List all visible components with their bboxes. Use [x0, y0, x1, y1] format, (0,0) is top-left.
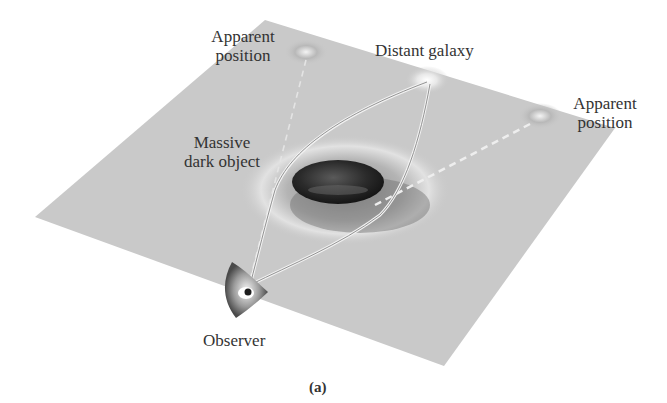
gravitational-lensing-diagram: Apparent position Distant galaxy Apparen…: [0, 0, 667, 403]
label-line: Apparent: [560, 94, 650, 113]
label-line: dark object: [172, 152, 272, 171]
distant-galaxy: [405, 66, 449, 94]
figure-caption: (a): [309, 379, 327, 396]
label-line: position: [203, 46, 283, 65]
label-distant-galaxy: Distant galaxy: [375, 41, 474, 60]
label-apparent-position-right: Apparent position: [560, 94, 650, 132]
label-observer: Observer: [203, 331, 265, 350]
label-massive-dark-object: Massive dark object: [172, 133, 272, 171]
massive-dark-object: [292, 160, 384, 204]
label-apparent-position-left: Apparent position: [203, 27, 283, 65]
apparent-galaxy-right: [518, 103, 562, 129]
diagram-canvas: [0, 0, 667, 403]
label-line: Massive: [172, 133, 272, 152]
label-line: Apparent: [203, 27, 283, 46]
label-line: position: [560, 113, 650, 132]
